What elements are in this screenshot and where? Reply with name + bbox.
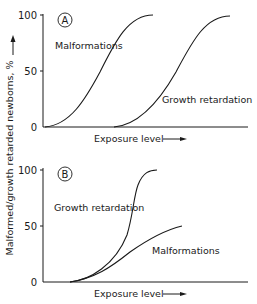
- label-a-growth-retardation: Growth retardation: [162, 94, 252, 105]
- panel-b-label: B: [62, 169, 69, 180]
- ytick-0: 0: [31, 122, 37, 133]
- panel-a-label: A: [62, 15, 69, 26]
- panel-a: 100 50 0 A Malformations Growth retardat…: [18, 10, 252, 144]
- dose-response-figure: Malformed/growth retarded newborns, % 10…: [0, 0, 257, 304]
- x-axis-arrow-icon: [180, 137, 187, 141]
- label-b-growth-retardation: Growth retardation: [54, 202, 144, 213]
- curve-b-growth-retardation: [70, 170, 157, 282]
- curve-a-malformations: [45, 15, 153, 127]
- ytick-50: 50: [24, 66, 37, 77]
- xlabel-b: Exposure level: [94, 288, 164, 299]
- ytick-50: 50: [24, 221, 37, 232]
- ytick-0: 0: [31, 277, 37, 288]
- ytick-100: 100: [18, 10, 37, 21]
- y-axis-label: Malformed/growth retarded newborns, %: [4, 35, 16, 255]
- ytick-100: 100: [18, 165, 37, 176]
- xlabel-a: Exposure level: [94, 133, 164, 144]
- label-a-malformations: Malformations: [55, 40, 123, 51]
- svg-text:Malformed/growth retarded newb: Malformed/growth retarded newborns, %: [4, 61, 15, 256]
- x-axis-arrow-icon: [180, 292, 187, 296]
- y-axis-arrow-icon: [11, 35, 16, 42]
- panel-b: 100 50 0 B Growth retardation Malformati…: [18, 165, 248, 299]
- label-b-malformations: Malformations: [152, 245, 220, 256]
- curve-a-growth-retardation: [114, 16, 230, 127]
